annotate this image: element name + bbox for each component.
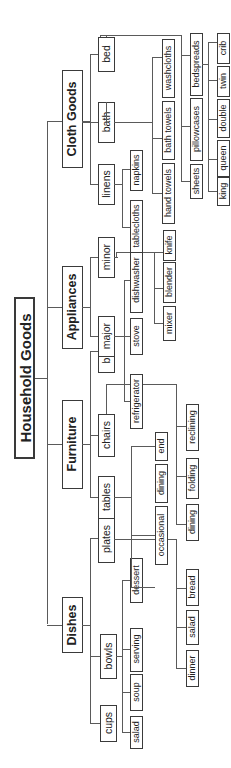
leaf-label: salad <box>187 616 197 638</box>
leaf-bed-bedspreads: bedspreads <box>190 33 202 95</box>
leaf-label: soup <box>131 682 141 702</box>
leaf-label: dishwasher <box>131 257 141 303</box>
leaf-tables-occasional: occasional <box>155 506 167 564</box>
node-minor: minor <box>98 237 114 277</box>
leaf-plates-bread: bread <box>186 569 198 605</box>
leaf-label: dining <box>156 471 166 495</box>
category-furniture: Furniture <box>62 400 82 488</box>
leaf-label: crib <box>218 41 228 56</box>
leaf-label: pillowcases <box>191 105 201 152</box>
node-label: bed <box>100 45 112 63</box>
leaf-label: dessert <box>131 565 141 595</box>
leaf-bowls-salad: salad <box>130 716 142 748</box>
leaf-label: end <box>156 438 166 453</box>
node-label: plates <box>100 525 112 553</box>
leaf-label: knife <box>164 235 174 254</box>
leaf-plates-dinner: dinner <box>186 650 198 686</box>
leaf-label: bedspreads <box>191 40 201 88</box>
leaf-linens-napkins: napkins <box>130 150 142 190</box>
leaf-label: refrigerator <box>131 379 141 423</box>
leaf-label: sheets <box>191 167 201 194</box>
node-plates: plates <box>98 516 114 562</box>
leaf-size-queen: queen <box>217 140 229 176</box>
leaf-minor-mixer: mixer <box>163 306 175 340</box>
node-label: chairs <box>100 421 112 449</box>
leaf-label: bread <box>187 575 197 598</box>
leaf-bath-bath-towels: bath towels <box>162 101 174 159</box>
leaf-major-stove: stove <box>130 318 142 354</box>
leaf-minor-blender: blender <box>163 262 175 302</box>
node-label: minor <box>100 243 112 270</box>
leaf-label: hand towels <box>163 168 173 217</box>
leaf-tables-end: end <box>155 432 167 460</box>
node-bed: bed <box>98 37 114 71</box>
node-label: major <box>100 322 112 349</box>
leaf-size-crib: crib <box>217 33 229 63</box>
leaf-size-double: double <box>217 99 229 137</box>
leaf-label: tablecloths <box>131 204 141 248</box>
category-label: Cloth Goods <box>65 81 79 156</box>
tree-diagram: Household Goods Dishes cups bowls salad … <box>0 0 231 768</box>
root-label: Household Goods <box>17 313 34 442</box>
node-tables: tables <box>98 476 114 518</box>
leaf-label: bath towels <box>163 107 173 153</box>
leaf-label: serving <box>131 634 141 663</box>
leaf-bowls-dessert: dessert <box>130 558 142 602</box>
leaf-label: napkins <box>131 154 141 186</box>
node-label: cups <box>102 712 114 734</box>
node-major: major <box>98 316 114 356</box>
category-appliances: Appliances <box>62 266 82 348</box>
leaf-linens-tablecloths: tablecloths <box>130 200 142 252</box>
leaf-chairs-reclining: reclining <box>186 404 198 450</box>
leaf-label: mixer <box>164 312 174 334</box>
node-label: linens <box>100 170 112 197</box>
leaf-size-king: king <box>217 177 229 205</box>
leaf-label: double <box>218 104 228 131</box>
leaf-plates-salad: salad <box>186 610 198 644</box>
leaf-bath-hand-towels: hand towels <box>162 163 174 223</box>
node-chairs: chairs <box>98 414 114 456</box>
category-label: Appliances <box>65 274 79 341</box>
leaf-label: blender <box>164 267 174 297</box>
leaf-label: dining <box>187 510 197 534</box>
leaf-bowls-serving: serving <box>130 628 142 671</box>
leaf-label: dinner <box>187 655 197 680</box>
leaf-label: reclining <box>187 410 197 444</box>
leaf-label: salad <box>131 721 141 743</box>
node-cups: cups <box>100 705 116 741</box>
leaf-label: stove <box>131 325 141 347</box>
leaf-major-refrigerator: refrigerator <box>130 374 142 428</box>
leaf-size-twin: twin <box>217 66 229 96</box>
leaf-label: queen <box>218 145 228 170</box>
node-label: tables <box>100 483 112 511</box>
leaf-label: washcloths <box>163 45 173 91</box>
leaf-label: twin <box>218 73 228 89</box>
leaf-bath-washcloths: washcloths <box>162 39 174 97</box>
leaf-label: folding <box>187 465 197 492</box>
leaf-bed-pillowcases: pillowcases <box>190 98 202 160</box>
root-node: Household Goods <box>15 298 34 458</box>
leaf-label: occasional <box>156 514 166 557</box>
leaf-major-dishwasher: dishwasher <box>130 248 142 312</box>
node-linens: linens <box>98 164 114 204</box>
category-dishes: Dishes <box>62 597 82 652</box>
category-label: Furniture <box>65 417 79 472</box>
node-label: bowls <box>102 643 114 670</box>
leaf-chairs-folding: folding <box>186 458 198 498</box>
leaf-minor-knife: knife <box>163 230 175 260</box>
category-cloth-goods: Cloth Goods <box>62 70 82 167</box>
node-bowls: bowls <box>100 634 116 678</box>
category-label: Dishes <box>65 604 79 645</box>
leaf-bowls-soup: soup <box>130 674 142 710</box>
leaf-label: king <box>218 183 228 200</box>
leaf-bed-sheets: sheets <box>190 164 202 198</box>
leaf-tables-dining: dining <box>155 464 167 502</box>
leaf-chairs-dining: dining <box>186 504 198 540</box>
